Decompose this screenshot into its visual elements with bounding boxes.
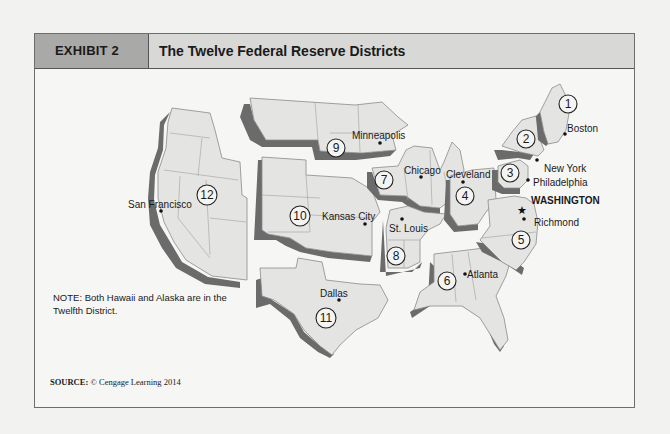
district-7-number: 7 (381, 173, 388, 187)
district-1-region (536, 84, 570, 146)
cleveland-dot (461, 180, 465, 184)
new-york-dot (535, 158, 539, 162)
label-kansas-city: Kansas City (322, 211, 375, 222)
district-6-region (410, 246, 510, 352)
district-10-number: 10 (293, 209, 307, 223)
source-line: SOURCE: © Cengage Learning 2014 (50, 377, 181, 387)
philadelphia-dot (526, 178, 530, 182)
label-cleveland: Cleveland (446, 169, 490, 180)
label-dallas: Dallas (320, 288, 348, 299)
source-label: SOURCE: (50, 377, 88, 387)
capital-star-icon: ★ (517, 204, 527, 216)
district-11-number: 11 (320, 311, 333, 325)
label-atlanta: Atlanta (467, 269, 499, 280)
map-note: NOTE: Both Hawaii and Alaska are in the … (53, 291, 253, 317)
label-san-francisco: San Francisco (128, 199, 192, 210)
label-philadelphia: Philadelphia (533, 177, 588, 188)
us-federal-reserve-map: .land { fill: #e4e4e2; stroke: #8a8a8a; … (0, 0, 670, 434)
district-11-region (256, 258, 388, 358)
district-9-region (240, 98, 408, 160)
label-st-louis: St. Louis (389, 223, 428, 234)
kansas-city-dot (363, 222, 367, 226)
label-richmond: Richmond (534, 217, 579, 228)
source-text: © Cengage Learning 2014 (90, 377, 180, 387)
district-10-region (254, 157, 380, 262)
label-minneapolis: Minneapolis (352, 130, 405, 141)
minneapolis-dot (378, 141, 382, 145)
district-12-number: 12 (200, 188, 214, 202)
label-boston: Boston (567, 123, 598, 134)
district-2-number: 2 (523, 132, 530, 146)
district-6-number: 6 (444, 274, 451, 288)
district-8-number: 8 (393, 249, 400, 263)
district-4-number: 4 (462, 189, 469, 203)
district-1-number: 1 (565, 97, 572, 111)
district-5-number: 5 (518, 233, 525, 247)
district-3-number: 3 (507, 166, 514, 180)
label-chicago: Chicago (404, 165, 441, 176)
label-washington: WASHINGTON (531, 195, 600, 206)
richmond-dot (522, 217, 526, 221)
label-new-york: New York (544, 163, 587, 174)
district-9-number: 9 (333, 141, 340, 155)
st-louis-dot (400, 217, 404, 221)
